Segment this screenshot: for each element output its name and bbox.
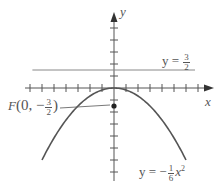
parabola-den: 6 xyxy=(168,174,175,183)
directrix-den: 2 xyxy=(183,63,190,72)
parabola-exp: 2 xyxy=(181,164,185,173)
x-axis-label: x xyxy=(205,95,211,108)
directrix-lhs: y = xyxy=(162,53,179,68)
y-axis-label: y xyxy=(120,5,126,18)
parabola-fraction: 1 6 xyxy=(168,164,175,183)
parabola-lhs: y = − xyxy=(139,164,167,179)
focus-point xyxy=(111,103,116,108)
focus-leader-line xyxy=(60,105,110,108)
focus-label: F(0, − 3 2 ) xyxy=(8,98,58,117)
focus-open: (0, − xyxy=(16,97,44,113)
focus-letter: F xyxy=(8,98,16,113)
directrix-fraction: 3 2 xyxy=(183,53,190,72)
directrix-label: y = 3 2 xyxy=(162,53,191,72)
focus-close: ) xyxy=(53,97,58,113)
focus-den: 2 xyxy=(45,108,52,117)
y-axis-arrow-icon xyxy=(111,12,118,22)
parabola-equation-label: y = − 1 6 x2 xyxy=(139,164,185,183)
focus-fraction: 3 2 xyxy=(45,98,52,117)
x-axis-arrow-icon xyxy=(204,85,214,92)
